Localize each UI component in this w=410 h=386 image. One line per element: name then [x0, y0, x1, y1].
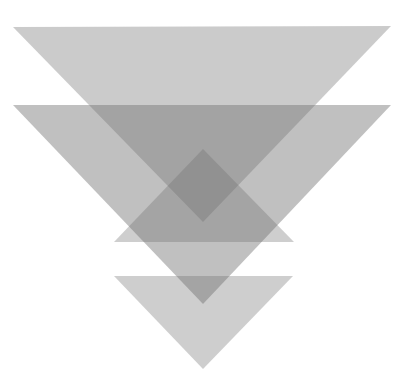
triangle-diagram	[0, 0, 410, 386]
